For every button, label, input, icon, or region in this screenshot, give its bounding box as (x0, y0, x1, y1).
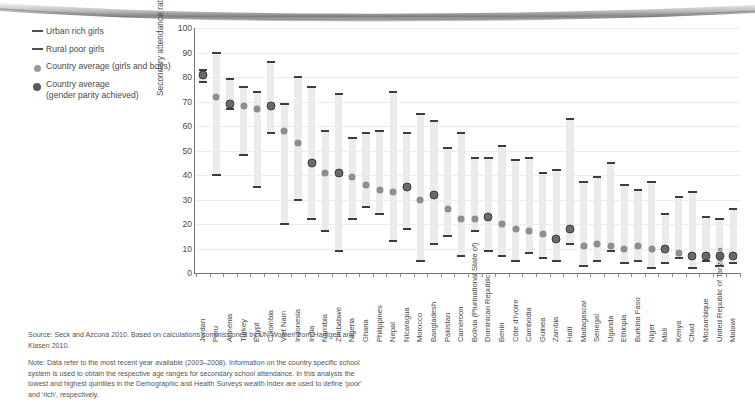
rural-poor-girls-cap (335, 250, 343, 252)
country-average-marker (471, 216, 478, 223)
range-bar (498, 146, 505, 256)
x-tick-label: Dominican Republic (484, 274, 491, 342)
range-bar (267, 62, 274, 133)
urban-rich-girls-cap (498, 145, 506, 147)
x-tick-label: Zambia (552, 317, 559, 342)
urban-rich-girls-cap (702, 216, 710, 218)
rural-poor-girls-cap (525, 252, 533, 254)
y-tick-label: 80 (182, 72, 192, 82)
country-average-marker (635, 243, 642, 250)
urban-rich-girls-cap (280, 103, 288, 105)
dash-icon (28, 26, 46, 32)
urban-rich-girls-cap (253, 91, 261, 93)
legend-item-label: Urban rich girls (46, 26, 104, 37)
dash-icon (28, 44, 46, 50)
range-bar (294, 77, 301, 200)
data-note: Note: Data refer to the most recent year… (28, 358, 373, 400)
rural-poor-girls-cap (457, 255, 465, 257)
country-average-gender-parity-marker (688, 251, 697, 260)
x-tick-label: Burkina Faso (634, 297, 641, 342)
range-bar (594, 177, 601, 260)
y-tick-label: 30 (182, 195, 192, 205)
x-tick-label: Guinea (539, 318, 546, 343)
urban-rich-girls-cap (661, 213, 669, 215)
country-average-marker (295, 140, 302, 147)
urban-rich-girls-cap (321, 130, 329, 132)
x-tick-label: Chad (688, 324, 695, 342)
country-average-marker (363, 181, 370, 188)
legend-item-label: Rural poor girls (46, 44, 104, 55)
rural-poor-girls-cap (321, 230, 329, 232)
x-tick-label: Nicaragua (403, 307, 410, 342)
rural-poor-girls-cap (675, 257, 683, 259)
country-average-marker (322, 169, 329, 176)
y-tick-label: 10 (182, 244, 192, 254)
country-average-gender-parity-marker (729, 251, 738, 260)
country-average-marker (444, 206, 451, 213)
y-axis-tick-labels: 0102030405060708090100 (170, 24, 192, 277)
rural-poor-girls-cap (539, 257, 547, 259)
urban-rich-girls-cap (647, 181, 655, 183)
urban-rich-girls-cap (620, 184, 628, 186)
country-average-marker (349, 174, 356, 181)
urban-rich-girls-cap (267, 61, 275, 63)
country-average-marker (539, 230, 546, 237)
x-tick-label: Haiti (566, 327, 573, 342)
urban-rich-girls-cap (403, 132, 411, 134)
urban-rich-girls-cap (471, 157, 479, 159)
rural-poor-girls-cap (593, 260, 601, 262)
urban-rich-girls-cap (552, 169, 560, 171)
rural-poor-girls-cap (362, 206, 370, 208)
rural-poor-girls-cap (566, 243, 574, 245)
light-dot-icon (28, 61, 46, 72)
x-tick-label: Morocco (416, 313, 423, 342)
range-bar (417, 114, 424, 261)
range-bar (512, 160, 519, 260)
x-tick-label: Uganda (607, 315, 614, 342)
range-bar (213, 53, 220, 176)
urban-rich-girls-cap (539, 172, 547, 174)
x-tick-label: Mali (661, 328, 668, 342)
urban-rich-girls-cap (362, 132, 370, 134)
rural-poor-girls-cap (294, 199, 302, 201)
urban-rich-girls-cap (634, 189, 642, 191)
country-average-marker (526, 228, 533, 235)
x-tick-label: Benin (498, 323, 505, 342)
urban-rich-girls-cap (307, 86, 315, 88)
country-average-gender-parity-marker (266, 102, 275, 111)
urban-rich-girls-cap (443, 147, 451, 149)
rural-poor-girls-cap (403, 228, 411, 230)
urban-rich-girls-cap (212, 52, 220, 54)
y-tick-label: 70 (182, 97, 192, 107)
range-bar (662, 214, 669, 263)
country-average-marker (458, 216, 465, 223)
x-tick-label: Bangladesh (430, 302, 437, 342)
x-tick-label: United Republic of Tanzania (716, 248, 723, 342)
rural-poor-girls-cap (253, 186, 261, 188)
range-bar (281, 104, 288, 224)
country-average-marker (594, 240, 601, 247)
urban-rich-girls-cap (239, 86, 247, 88)
country-average-gender-parity-marker (702, 251, 711, 260)
y-tick-label: 40 (182, 170, 192, 180)
country-average-marker (675, 250, 682, 257)
x-tick-label: Cameroon (457, 307, 464, 342)
y-tick-label: 60 (182, 121, 192, 131)
range-bar (634, 190, 641, 261)
rural-poor-girls-cap (688, 267, 696, 269)
chart-footnotes: Source: Seck and Azcona 2010. Based on c… (28, 330, 373, 407)
chart-plot-area (196, 28, 740, 273)
country-average-marker (376, 186, 383, 193)
urban-rich-girls-cap (348, 137, 356, 139)
range-bar (458, 133, 465, 256)
range-bar (444, 148, 451, 236)
y-axis-title: Secondary attendance rates (%) (155, 0, 165, 96)
rural-poor-girls-cap (634, 260, 642, 262)
rural-poor-girls-cap (647, 267, 655, 269)
country-average-gender-parity-marker (226, 99, 235, 108)
country-average-gender-parity-marker (334, 168, 343, 177)
data-series-layer (196, 28, 740, 273)
urban-rich-girls-cap (729, 208, 737, 210)
urban-rich-girls-cap (375, 130, 383, 132)
country-average-marker (512, 225, 519, 232)
